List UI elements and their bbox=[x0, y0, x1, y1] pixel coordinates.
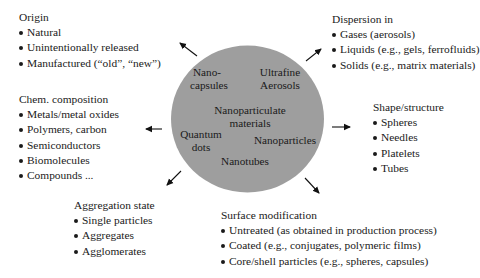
bullet-icon bbox=[19, 31, 23, 35]
surface-modification-list: Untreated (as obtained in production pro… bbox=[221, 223, 437, 269]
bullet-icon bbox=[19, 144, 23, 148]
list-item: Metals/metal oxides bbox=[19, 107, 119, 122]
bullet-icon bbox=[332, 64, 336, 68]
list-item: Biomolecules bbox=[19, 153, 119, 168]
aggregation-state-heading: Aggregation state bbox=[74, 198, 155, 213]
bullet-icon bbox=[373, 121, 377, 125]
arrow-to-surface-modification bbox=[305, 178, 319, 193]
bullet-icon bbox=[19, 128, 23, 132]
label-nanocapsules: Nano- capsules bbox=[190, 66, 228, 92]
shape-structure-heading: Shape/structure bbox=[373, 100, 444, 115]
shape-structure-list: Spheres Needles Platelets Tubes bbox=[373, 115, 444, 176]
origin-list: Natural Unintentionally released Manufac… bbox=[19, 25, 161, 71]
list-item: Single particles bbox=[74, 213, 155, 228]
list-item: Platelets bbox=[373, 146, 444, 161]
bullet-icon bbox=[19, 62, 23, 66]
list-item: Solids (e.g., matrix materials) bbox=[332, 58, 480, 73]
bullet-icon bbox=[19, 46, 23, 50]
list-item: Untreated (as obtained in production pro… bbox=[221, 223, 437, 238]
chem-composition-list: Metals/metal oxides Polymers, carbon Sem… bbox=[19, 107, 119, 183]
list-item: Gases (aerosols) bbox=[332, 27, 480, 42]
bullet-icon bbox=[221, 260, 225, 264]
label-nanoparticulate-materials: Nanoparticulate materials bbox=[210, 104, 290, 130]
arrow-to-aggregation-state bbox=[167, 171, 181, 185]
aggregation-state-block: Aggregation state Single particles Aggre… bbox=[74, 198, 155, 259]
dispersion-list: Gases (aerosols) Liquids (e.g., gels, fe… bbox=[332, 27, 480, 73]
list-item: Coated (e.g., conjugates, polymeric film… bbox=[221, 238, 437, 253]
list-item: Liquids (e.g., gels, ferrofluids) bbox=[332, 42, 480, 57]
bullet-icon bbox=[74, 234, 78, 238]
list-item: Aggregates bbox=[74, 228, 155, 243]
label-ultrafine-aerosols: Ultrafine Aerosols bbox=[249, 66, 311, 92]
list-item: Core/shell particles (e.g., spheres, cap… bbox=[221, 254, 437, 269]
dispersion-block: Dispersion in Gases (aerosols) Liquids (… bbox=[332, 12, 480, 73]
list-item: Tubes bbox=[373, 161, 444, 176]
chem-composition-heading: Chem. composition bbox=[19, 92, 119, 107]
bullet-icon bbox=[74, 250, 78, 254]
list-item: Compounds ... bbox=[19, 168, 119, 183]
arrow-to-origin bbox=[180, 43, 197, 56]
bullet-icon bbox=[332, 33, 336, 37]
label-nanoparticles: Nanoparticles bbox=[249, 134, 321, 147]
bullet-icon bbox=[19, 113, 23, 117]
list-item: Natural bbox=[19, 25, 161, 40]
list-item: Agglomerates bbox=[74, 244, 155, 259]
chem-composition-block: Chem. composition Metals/metal oxides Po… bbox=[19, 92, 119, 183]
aggregation-state-list: Single particles Aggregates Agglomerates bbox=[74, 213, 155, 259]
bullet-icon bbox=[373, 136, 377, 140]
list-item: Spheres bbox=[373, 115, 444, 130]
bullet-icon bbox=[373, 152, 377, 156]
bullet-icon bbox=[373, 167, 377, 171]
bullet-icon bbox=[221, 244, 225, 248]
arrow-to-dispersion bbox=[306, 49, 321, 61]
list-item: Unintentionally released bbox=[19, 40, 161, 55]
label-nanotubes: Nanotubes bbox=[210, 155, 280, 168]
bullet-icon bbox=[19, 174, 23, 178]
list-item: Semiconductors bbox=[19, 138, 119, 153]
shape-structure-block: Shape/structure Spheres Needles Platelet… bbox=[373, 100, 444, 176]
dispersion-heading: Dispersion in bbox=[332, 12, 480, 27]
bullet-icon bbox=[74, 219, 78, 223]
label-quantum-dots: Quantum dots bbox=[175, 128, 227, 154]
origin-heading: Origin bbox=[19, 10, 161, 25]
list-item: Manufactured (“old”, “new”) bbox=[19, 56, 161, 71]
list-item: Polymers, carbon bbox=[19, 122, 119, 137]
list-item: Needles bbox=[373, 130, 444, 145]
bullet-icon bbox=[221, 229, 225, 233]
origin-block: Origin Natural Unintentionally released … bbox=[19, 10, 161, 71]
bullet-icon bbox=[332, 48, 336, 52]
surface-modification-heading: Surface modification bbox=[221, 208, 437, 223]
surface-modification-block: Surface modification Untreated (as obtai… bbox=[221, 208, 437, 269]
bullet-icon bbox=[19, 159, 23, 163]
